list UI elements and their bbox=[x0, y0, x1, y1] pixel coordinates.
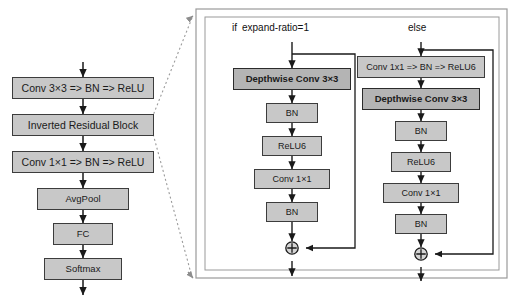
branch2-node-bn-1[interactable]: BN bbox=[395, 121, 447, 141]
branch2-node-relu6[interactable]: ReLU6 bbox=[391, 152, 451, 172]
branch1-condition-caption: ifexpand-ratio=1 bbox=[232, 23, 309, 33]
branch1-condition-text: expand-ratio=1 bbox=[242, 22, 309, 33]
pipeline-node-softmax-label: Softmax bbox=[66, 264, 101, 274]
branch1-node-bn-1-label: BN bbox=[286, 109, 299, 118]
branch1-node-relu6-label: ReLU6 bbox=[278, 142, 306, 151]
branch2-node-conv1x1-bn-relu6[interactable]: Conv 1x1 => BN => ReLU6 bbox=[357, 56, 485, 78]
branch2-node-conv1x1-bn-relu6-label: Conv 1x1 => BN => ReLU6 bbox=[366, 63, 476, 72]
pipeline-node-avgpool-label: AvgPool bbox=[65, 194, 100, 204]
branch1-node-bn-1[interactable]: BN bbox=[266, 103, 318, 123]
pipeline-node-conv1x1-label: Conv 1×1 => BN => ReLU bbox=[22, 157, 145, 168]
pipeline-node-inverted-residual-block-label: Inverted Residual Block bbox=[28, 120, 138, 131]
pipeline-node-softmax[interactable]: Softmax bbox=[44, 258, 122, 280]
branch1-node-relu6[interactable]: ReLU6 bbox=[262, 136, 322, 156]
branch2-node-relu6-label: ReLU6 bbox=[407, 158, 435, 167]
pipeline-node-fc-label: FC bbox=[77, 229, 90, 239]
diagram-canvas: Conv 3×3 => BN => ReLU Inverted Residual… bbox=[0, 0, 523, 299]
branch1-node-conv1x1-label: Conv 1×1 bbox=[273, 175, 312, 184]
branch1-node-conv1x1[interactable]: Conv 1×1 bbox=[254, 169, 330, 189]
branch1-node-bn-2[interactable]: BN bbox=[266, 202, 318, 222]
branch1-node-depthwise-conv3x3[interactable]: Depthwise Conv 3×3 bbox=[233, 68, 351, 90]
pipeline-node-conv3x3-label: Conv 3×3 => BN => ReLU bbox=[22, 83, 145, 94]
branch2-node-bn-1-label: BN bbox=[415, 127, 428, 136]
pipeline-node-inverted-residual-block[interactable]: Inverted Residual Block bbox=[12, 114, 154, 136]
branch1-condition-keyword: if bbox=[232, 22, 237, 33]
branch2-node-bn-2[interactable]: BN bbox=[395, 214, 447, 234]
branch1-node-bn-2-label: BN bbox=[286, 208, 299, 217]
branch2-node-conv1x1[interactable]: Conv 1×1 bbox=[383, 183, 459, 203]
branch2-node-depthwise-conv3x3[interactable]: Depthwise Conv 3×3 bbox=[362, 88, 480, 110]
branch2-node-bn-2-label: BN bbox=[415, 220, 428, 229]
pipeline-node-avgpool[interactable]: AvgPool bbox=[37, 188, 129, 210]
branch1-node-depthwise-conv3x3-label: Depthwise Conv 3×3 bbox=[246, 74, 339, 84]
pipeline-node-fc[interactable]: FC bbox=[53, 223, 113, 245]
branch2-condition-keyword: else bbox=[408, 22, 426, 33]
branch2-node-depthwise-conv3x3-label: Depthwise Conv 3×3 bbox=[375, 94, 468, 104]
branch2-condition-caption: else bbox=[408, 23, 426, 33]
pipeline-node-conv3x3[interactable]: Conv 3×3 => BN => ReLU bbox=[12, 77, 154, 99]
pipeline-node-conv1x1[interactable]: Conv 1×1 => BN => ReLU bbox=[12, 151, 154, 173]
branch2-node-conv1x1-label: Conv 1×1 bbox=[402, 189, 441, 198]
node-layer: Conv 3×3 => BN => ReLU Inverted Residual… bbox=[0, 0, 523, 299]
